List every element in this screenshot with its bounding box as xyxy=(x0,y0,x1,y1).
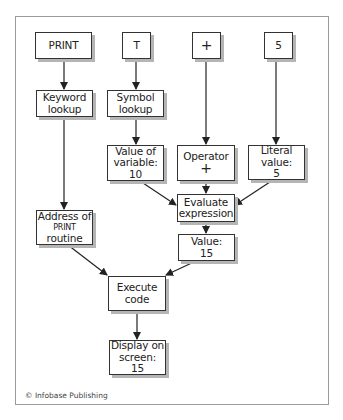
evaluate-expression-box: Evaluate expression xyxy=(177,194,235,222)
keyword-lookup-line-1: Keyword xyxy=(43,92,86,104)
symbol-lookup-line-1: Symbol xyxy=(117,92,155,104)
arrow-value-to-execute xyxy=(166,261,196,275)
input-print-box: PRINT xyxy=(35,32,92,59)
value-15-box: Value: 15 xyxy=(178,234,235,261)
address-of-print-box: Address of PRINT routine xyxy=(36,210,93,245)
arrow-address-to-execute xyxy=(68,245,107,275)
input-t-label: T xyxy=(133,40,139,52)
arrow-literal-to-evaluate xyxy=(235,180,273,205)
display-on-screen-box: Display on screen: 15 xyxy=(109,340,166,375)
execute-code-line-2: code xyxy=(125,294,150,306)
address-of-print-line-2: PRINT xyxy=(53,223,76,233)
input-plus-label: + xyxy=(201,39,213,52)
execute-code-box: Execute code xyxy=(108,276,166,311)
address-of-print-line-1: Address of xyxy=(38,211,91,223)
arrow-variable-to-evaluate xyxy=(140,181,176,205)
input-five-box: 5 xyxy=(264,32,293,59)
execute-code-line-1: Execute xyxy=(117,282,158,294)
display-on-screen-line-3: 15 xyxy=(131,363,144,375)
value-of-variable-box: Value of variable: 10 xyxy=(107,145,164,181)
symbol-lookup-box: Symbol lookup xyxy=(107,90,164,117)
symbol-lookup-line-2: lookup xyxy=(119,104,153,116)
operator-box: Operator + xyxy=(177,145,235,181)
keyword-lookup-box: Keyword lookup xyxy=(36,90,93,117)
copyright-credit: © Infobase Publishing xyxy=(25,391,108,400)
value-of-variable-line-3: 10 xyxy=(129,169,142,181)
value-15-line-1: Value: xyxy=(191,236,222,248)
keyword-lookup-line-2: lookup xyxy=(48,104,82,116)
evaluate-expression-line-2: expression xyxy=(179,208,234,220)
address-of-print-line-3: routine xyxy=(47,233,83,245)
input-plus-box: + xyxy=(192,32,221,59)
literal-value-line-3: 5 xyxy=(273,168,279,180)
input-print-label: PRINT xyxy=(49,40,79,52)
literal-value-box: Literal value: 5 xyxy=(248,145,305,180)
input-t-box: T xyxy=(122,32,151,59)
value-15-line-2: 15 xyxy=(200,248,213,260)
input-five-label: 5 xyxy=(275,40,281,52)
operator-symbol: + xyxy=(200,162,212,175)
